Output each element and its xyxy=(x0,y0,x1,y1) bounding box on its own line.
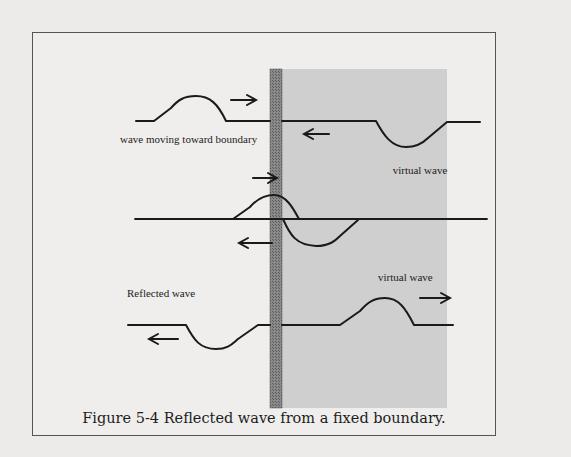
reflection-diagram xyxy=(0,0,571,457)
reflected-pulse xyxy=(128,325,270,349)
virtual-region xyxy=(282,69,447,408)
incident-wave-label: wave moving toward boundary xyxy=(120,133,257,145)
arrow-left-icon xyxy=(149,334,178,344)
arrow-left-icon xyxy=(239,238,272,248)
reflected-wave-label: Reflected wave xyxy=(127,287,195,299)
fixed-boundary xyxy=(270,69,282,408)
figure-caption: Figure 5-4 Reflected wave from a fixed b… xyxy=(32,410,496,426)
virtual-wave-label-top: virtual wave xyxy=(393,164,448,176)
virtual-wave-label-bottom: virtual wave xyxy=(378,271,433,283)
arrow-right-icon xyxy=(231,95,256,105)
